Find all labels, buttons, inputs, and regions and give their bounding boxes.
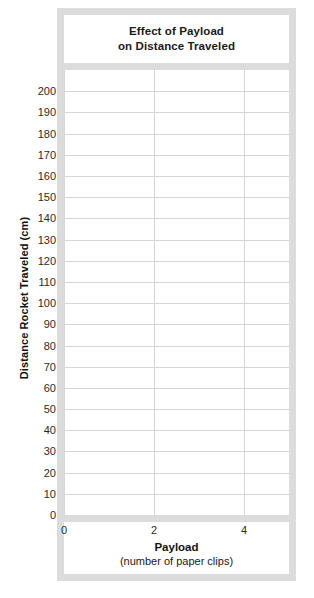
y-tick-label-180: 180 (38, 128, 56, 139)
x-tick-label-2: 2 (151, 524, 157, 536)
gridline-y-60 (64, 388, 289, 389)
x-axis-subtitle: (number of paper clips) (64, 555, 289, 567)
y-tick-label-160: 160 (38, 171, 56, 182)
gridline-y-120 (64, 261, 289, 262)
chart-title-line-2: on Distance Traveled (118, 39, 235, 54)
y-tick-label-190: 190 (38, 107, 56, 118)
gridline-y-90 (64, 324, 289, 325)
y-tick-label-10: 10 (44, 488, 56, 499)
gridline-y-170 (64, 155, 289, 156)
gridline-y-100 (64, 303, 289, 304)
gridline-y-80 (64, 346, 289, 347)
y-tick-label-100: 100 (38, 298, 56, 309)
gridline-y-30 (64, 451, 289, 452)
y-tick-label-110: 110 (38, 276, 56, 287)
gridline-y-20 (64, 473, 289, 474)
y-tick-label-70: 70 (44, 361, 56, 372)
x-axis-box: 024 Payload (number of paper clips) (64, 522, 289, 574)
gridline-y-110 (64, 282, 289, 283)
gridline-y-130 (64, 240, 289, 241)
y-tick-label-50: 50 (44, 404, 56, 415)
gridline-y-70 (64, 367, 289, 368)
gridline-y-180 (64, 134, 289, 135)
gridline-y-10 (64, 494, 289, 495)
y-tick-label-20: 20 (44, 467, 56, 478)
plot-divider (57, 515, 296, 522)
gridline-y-140 (64, 218, 289, 219)
y-tick-label-130: 130 (38, 234, 56, 245)
gridline-y-200 (64, 91, 289, 92)
graph-worksheet: Effect of Payload on Distance Traveled 0… (0, 0, 314, 598)
gridline-x-4 (244, 70, 245, 515)
y-tick-label-30: 30 (44, 446, 56, 457)
y-tick-label-170: 170 (38, 149, 56, 160)
y-tick-label-150: 150 (38, 192, 56, 203)
y-tick-label-40: 40 (44, 425, 56, 436)
plot-area (64, 70, 289, 515)
gridline-y-190 (64, 112, 289, 113)
x-axis-title: Payload (64, 541, 289, 553)
y-tick-label-140: 140 (38, 213, 56, 224)
y-tick-label-90: 90 (44, 319, 56, 330)
gridline-y-50 (64, 409, 289, 410)
chart-title-box: Effect of Payload on Distance Traveled (64, 15, 289, 63)
x-tick-label-4: 4 (241, 524, 247, 536)
x-tick-label-0: 0 (61, 524, 67, 536)
gridline-x-2 (154, 70, 155, 515)
gridline-x-0 (64, 70, 65, 515)
y-tick-label-120: 120 (38, 255, 56, 266)
y-tick-label-0: 0 (50, 510, 56, 521)
gridline-y-40 (64, 430, 289, 431)
y-tick-label-60: 60 (44, 382, 56, 393)
y-tick-label-200: 200 (38, 86, 56, 97)
chart-title-line-1: Effect of Payload (129, 24, 224, 39)
gridline-y-150 (64, 197, 289, 198)
title-divider (57, 63, 296, 70)
y-axis-title: Distance Rocket Traveled (cm) (18, 178, 30, 418)
y-tick-label-80: 80 (44, 340, 56, 351)
gridline-y-160 (64, 176, 289, 177)
y-axis-tick-labels: 0102030405060708090100110120130140150160… (0, 70, 60, 515)
